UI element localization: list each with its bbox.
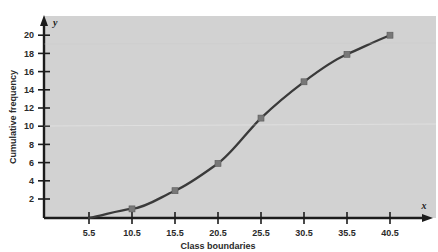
y-tick-label: 18	[24, 49, 34, 59]
data-point-markers	[129, 32, 393, 212]
x-axis-symbol-label: x	[421, 200, 427, 211]
y-tick-label: 8	[29, 140, 34, 150]
chart-canvas: 2 4 6 8 10 12 14 16 18 20 5.5 10.5 15.5	[0, 0, 438, 252]
x-tick-label: 20.5	[209, 228, 227, 238]
x-tick-label: 35.5	[338, 228, 356, 238]
x-tick-label: 30.5	[295, 228, 313, 238]
x-axis-tick-labels: 5.5 10.5 15.5 20.5 25.5 30.5 35.5 40.5	[83, 228, 399, 238]
cumulative-frequency-ogive-figure: 2 4 6 8 10 12 14 16 18 20 5.5 10.5 15.5	[0, 0, 438, 252]
x-tick-label: 5.5	[83, 228, 96, 238]
ogive-line	[89, 35, 390, 218]
y-axis-tick-labels: 2 4 6 8 10 12 14 16 18 20	[24, 30, 34, 204]
y-tick-label: 10	[24, 121, 34, 131]
y-tick-label: 16	[24, 67, 34, 77]
y-axis	[40, 15, 48, 218]
data-point-marker	[258, 115, 264, 121]
x-tick-label: 40.5	[381, 228, 399, 238]
data-point-marker	[215, 160, 221, 166]
y-axis-title: Cumulative frequency	[8, 70, 18, 164]
scan-artifacts	[44, 43, 436, 126]
data-point-marker	[129, 206, 135, 212]
y-tick-label: 6	[29, 158, 34, 168]
data-point-marker	[172, 188, 178, 194]
data-point-marker	[301, 79, 307, 85]
y-tick-label: 14	[24, 85, 34, 95]
y-tick-label: 20	[24, 30, 34, 40]
x-axis-title: Class boundaries	[180, 241, 255, 251]
y-tick-label: 4	[29, 176, 34, 186]
data-point-marker	[387, 32, 393, 38]
data-point-marker	[344, 51, 350, 57]
x-tick-label: 15.5	[166, 228, 184, 238]
y-axis-symbol-label: y	[52, 17, 58, 28]
y-tick-label: 12	[24, 103, 34, 113]
y-tick-label: 2	[29, 194, 34, 204]
x-tick-label: 10.5	[123, 228, 141, 238]
x-tick-label: 25.5	[252, 228, 270, 238]
